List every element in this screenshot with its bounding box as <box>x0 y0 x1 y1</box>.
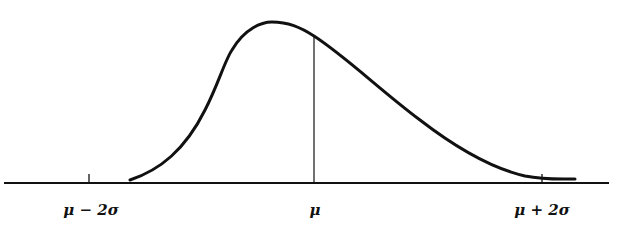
label-mu-plus-2-sigma: μ + 2σ <box>514 201 570 219</box>
label-mu-minus-2-sigma: μ − 2σ <box>63 201 119 219</box>
label-mu: μ <box>310 201 321 219</box>
density-curve <box>130 22 575 180</box>
distribution-figure <box>0 0 632 229</box>
